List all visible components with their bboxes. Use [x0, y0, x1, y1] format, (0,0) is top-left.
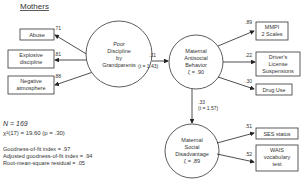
loading-mmpi: .89	[245, 19, 252, 25]
latent-antisocial: Maternal Antisocial Behavior ζ = .90	[169, 35, 223, 89]
loading-negative: .88	[54, 73, 61, 79]
indicator-abuse: Abuse .71	[20, 25, 61, 40]
path-t-pd-asb: (t = 1.43)	[138, 63, 158, 69]
svg-text:vocabulary: vocabulary	[264, 154, 291, 160]
svg-text:Maternal: Maternal	[185, 48, 206, 54]
svg-text:ζ = .90: ζ = .90	[188, 69, 204, 76]
path-t-asb-msd: (t = 1.57)	[198, 105, 218, 111]
svg-text:Grandparents: Grandparents	[102, 62, 136, 68]
svg-text:Abuse: Abuse	[29, 32, 45, 38]
svg-text:Antisocial: Antisocial	[184, 55, 208, 61]
diagram-title: Mothers	[20, 2, 49, 11]
svg-text:2 Scales: 2 Scales	[261, 31, 282, 37]
latent-poor-discipline: Poor Discipline by Grandparents	[86, 21, 152, 87]
loading-license: .22	[245, 52, 252, 58]
gfi: Goodness-of-fit index = .97	[3, 146, 70, 153]
svg-text:Explosive: Explosive	[19, 52, 43, 58]
svg-text:Disadvantage: Disadvantage	[175, 151, 209, 157]
svg-text:Discipline: Discipline	[107, 48, 131, 54]
loading-ses: .51	[245, 123, 252, 129]
indicator-license: Driver's License Suspensions .22	[245, 52, 300, 76]
latent-disadvantage: Maternal Social Disadvantage ζ = .89	[165, 124, 219, 178]
svg-text:atmosphere: atmosphere	[16, 85, 45, 91]
rmsr: Root-mean-square residual = .05	[3, 160, 85, 167]
svg-text:License: License	[269, 61, 288, 67]
svg-text:Maternal: Maternal	[181, 137, 202, 143]
svg-text:Negative: Negative	[20, 78, 42, 84]
svg-text:ζ = .89: ζ = .89	[184, 158, 200, 165]
svg-text:Poor: Poor	[113, 41, 125, 47]
svg-text:Drug Use: Drug Use	[262, 87, 285, 93]
loading-drug: .30	[245, 78, 252, 84]
indicator-wais: WAIS vocabulary test .52	[245, 145, 298, 171]
sample-size: N = 169	[3, 120, 28, 127]
indicator-explosive: Explosive discipline .81	[8, 50, 61, 68]
svg-text:Behavior: Behavior	[185, 62, 207, 68]
indicator-ses: SES status .51	[245, 123, 298, 139]
svg-text:discipline: discipline	[20, 59, 43, 65]
loading-abuse: .71	[54, 25, 61, 31]
agfi: Adjusted goodness-of-fit index = .94	[3, 153, 92, 160]
svg-text:MMPI: MMPI	[265, 24, 280, 30]
indicator-mmpi: MMPI 2 Scales .89	[245, 19, 288, 40]
svg-text:Suspensions: Suspensions	[262, 68, 294, 74]
svg-text:SES status: SES status	[263, 131, 290, 137]
indicator-drug: Drug Use .30	[245, 78, 292, 95]
svg-text:Driver's: Driver's	[269, 54, 288, 60]
indicator-negative: Negative atmosphere .88	[8, 73, 61, 94]
svg-text:WAIS: WAIS	[270, 147, 284, 153]
svg-text:Social: Social	[185, 144, 200, 150]
svg-text:test: test	[273, 161, 282, 167]
loading-explosive: .81	[54, 51, 61, 57]
loading-wais: .52	[245, 151, 252, 157]
chi-square: χ²(17) = 19.60 (p = .30)	[3, 130, 65, 137]
path-coef-pd-asb: .31	[149, 52, 156, 58]
svg-text:by: by	[116, 55, 122, 61]
